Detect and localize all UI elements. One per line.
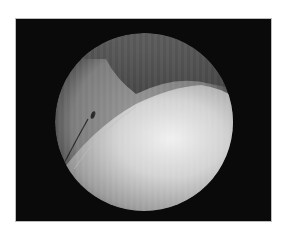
image-frame: [15, 18, 272, 222]
scope-circle: [55, 33, 241, 219]
endoscopic-view: [16, 19, 272, 222]
